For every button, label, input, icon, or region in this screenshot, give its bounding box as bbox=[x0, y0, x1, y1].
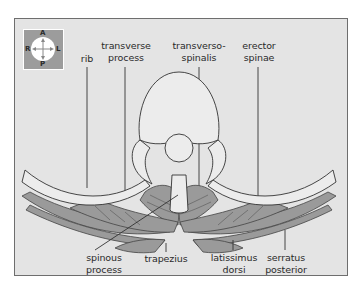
label-latissimus-dorsi: latissimus dorsi bbox=[208, 252, 260, 275]
label-spinous-process: spinous process bbox=[83, 252, 125, 275]
label-rib: rib bbox=[75, 53, 99, 65]
label-trapezius: trapezius bbox=[143, 253, 189, 265]
label-erector-spinae: erector spinae bbox=[238, 40, 280, 63]
label-transverse-process: transverse process bbox=[100, 40, 152, 63]
label-serratus-posterior: serratus posterior bbox=[262, 252, 310, 275]
label-transversospinalis: transverso- spinalis bbox=[172, 40, 226, 63]
